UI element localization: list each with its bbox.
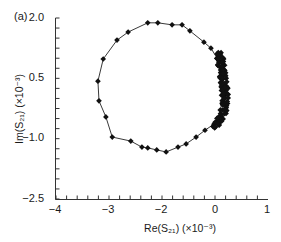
data-markers — [95, 20, 227, 155]
plot-area — [0, 0, 281, 242]
axes — [56, 18, 269, 200]
dense-data-cluster — [210, 50, 231, 131]
y-minor-ticks — [56, 18, 60, 199]
x-minor-ticks — [56, 196, 257, 200]
